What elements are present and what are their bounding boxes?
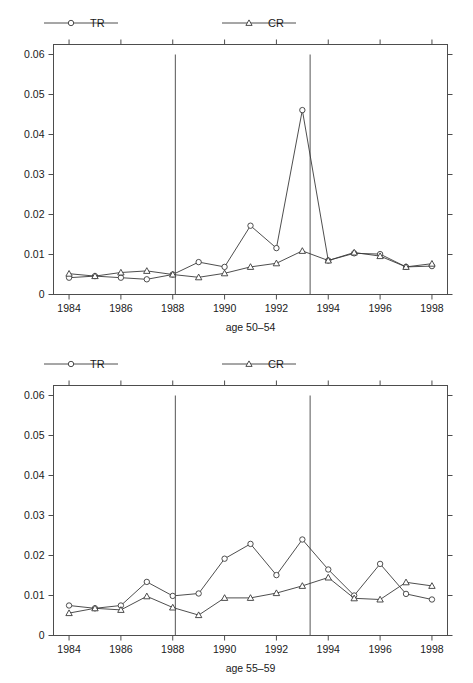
legend-label-tr: TR (90, 358, 105, 370)
y-tick-label: 0.05 (24, 88, 45, 100)
x-tick-label: 1984 (57, 643, 81, 655)
legend-marker-circle-icon (68, 20, 73, 25)
chart-legend: TRCR (44, 17, 296, 29)
data-point-circle (222, 264, 227, 269)
plot-frame (54, 45, 448, 295)
data-point-circle (326, 567, 331, 572)
x-tick-label: 1996 (368, 643, 392, 655)
x-tick-label: 1986 (109, 643, 133, 655)
legend-label-cr: CR (268, 358, 284, 370)
y-tick-label: 0.01 (24, 248, 45, 260)
data-point-circle (170, 593, 175, 598)
data-point-circle (300, 107, 305, 112)
y-tick-label: 0.01 (24, 589, 45, 601)
x-tick-label: 1988 (161, 302, 185, 314)
data-point-circle (196, 259, 201, 264)
figure-page: TRCR00.010.020.030.040.050.0619841986198… (0, 0, 473, 683)
x-tick-label: 1994 (317, 643, 341, 655)
legend-label-cr: CR (268, 17, 284, 29)
x-axis: 19841986198819901992199419961998 (57, 40, 452, 314)
y-tick-label: 0.03 (24, 509, 45, 521)
data-point-triangle (144, 593, 150, 599)
series-cr (66, 574, 435, 617)
x-tick-label: 1990 (213, 643, 237, 655)
y-axis: 00.010.020.030.040.050.06 (24, 389, 53, 641)
data-point-circle (66, 603, 71, 608)
legend-label-tr: TR (90, 17, 105, 29)
y-tick-label: 0.02 (24, 208, 45, 220)
data-point-triangle (403, 579, 409, 585)
y-tick-label: 0.05 (24, 429, 45, 441)
x-tick-label: 1986 (109, 302, 133, 314)
data-point-circle (144, 277, 149, 282)
x-tick-label: 1992 (265, 302, 289, 314)
x-axis-title: age 55–59 (226, 662, 276, 674)
data-point-triangle (429, 261, 435, 267)
data-point-triangle (299, 248, 305, 254)
data-point-circle (222, 556, 227, 561)
chart-svg-age-55-59: TRCR00.010.020.030.040.050.0619841986198… (0, 341, 473, 682)
chart-legend: TRCR (44, 358, 296, 370)
x-tick-label: 1996 (368, 302, 392, 314)
data-point-circle (274, 245, 279, 250)
x-axis-title: age 50–54 (226, 321, 276, 333)
data-point-circle (377, 561, 382, 566)
y-tick-label: 0 (39, 629, 45, 641)
data-point-circle (144, 579, 149, 584)
y-axis: 00.010.020.030.040.050.06 (24, 48, 53, 300)
x-tick-label: 1998 (420, 302, 444, 314)
data-point-circle (429, 597, 434, 602)
x-tick-label: 1992 (265, 643, 289, 655)
data-point-circle (196, 591, 201, 596)
x-tick-label: 1994 (317, 302, 341, 314)
y-tick-label: 0.06 (24, 389, 45, 401)
x-tick-label: 1984 (57, 302, 81, 314)
data-point-triangle (325, 574, 331, 580)
x-axis: 19841986198819901992199419961998 (57, 381, 452, 655)
chart-panel-age-50-54: TRCR00.010.020.030.040.050.0619841986198… (0, 0, 473, 341)
y-tick-label: 0 (39, 288, 45, 300)
x-tick-label: 1998 (420, 643, 444, 655)
y-tick-label: 0.06 (24, 48, 45, 60)
y-tick-label: 0.03 (24, 168, 45, 180)
data-point-circle (248, 223, 253, 228)
reference-lines (175, 396, 310, 636)
data-point-circle (274, 572, 279, 577)
y-tick-label: 0.02 (24, 549, 45, 561)
data-point-triangle (66, 271, 72, 277)
data-point-circle (300, 537, 305, 542)
y-tick-label: 0.04 (24, 128, 45, 140)
chart-panel-age-55-59: TRCR00.010.020.030.040.050.0619841986198… (0, 341, 473, 682)
data-point-circle (118, 275, 123, 280)
chart-svg-age-50-54: TRCR00.010.020.030.040.050.0619841986198… (0, 0, 473, 341)
data-point-circle (248, 541, 253, 546)
y-tick-label: 0.04 (24, 469, 45, 481)
legend-marker-circle-icon (68, 361, 73, 366)
x-tick-label: 1988 (161, 643, 185, 655)
data-point-circle (403, 591, 408, 596)
data-point-triangle (144, 268, 150, 274)
data-point-triangle (273, 260, 279, 266)
x-tick-label: 1990 (213, 302, 237, 314)
